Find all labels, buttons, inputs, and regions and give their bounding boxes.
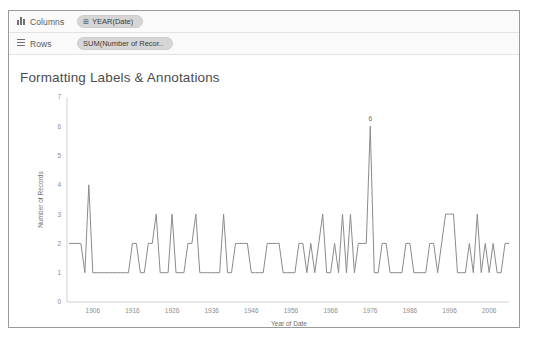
rows-lines-icon bbox=[17, 39, 25, 49]
view-area: Formatting Labels & Annotations 01234567… bbox=[9, 55, 519, 327]
y-tick-3: 3 bbox=[57, 211, 61, 218]
y-tick-2: 2 bbox=[57, 240, 61, 247]
x-tick-1996: 1996 bbox=[442, 307, 457, 314]
pill-year-date[interactable]: ⊞ YEAR(Date) bbox=[77, 15, 143, 28]
x-tick-1926: 1926 bbox=[165, 307, 180, 314]
line-chart-svg: 01234567 Number of Records 1906191619261… bbox=[9, 55, 520, 328]
columns-bars-icon bbox=[17, 17, 25, 27]
y-tick-7: 7 bbox=[57, 93, 61, 100]
x-tick-1976: 1976 bbox=[363, 307, 378, 314]
x-tick-1906: 1906 bbox=[86, 307, 101, 314]
columns-shelf[interactable]: Columns ⊞ YEAR(Date) bbox=[9, 11, 519, 33]
data-series-line[interactable] bbox=[69, 126, 509, 272]
rows-shelf-label: Rows bbox=[9, 39, 77, 49]
x-tick-2006: 2006 bbox=[482, 307, 497, 314]
y-tick-1: 1 bbox=[57, 269, 61, 276]
x-tick-1916: 1916 bbox=[125, 307, 140, 314]
x-axis: 1906191619261936194619561966197619861996… bbox=[67, 302, 509, 327]
rows-shelf[interactable]: Rows SUM(Number of Recor.. bbox=[9, 33, 519, 55]
pill-sum-number-of-records-label: SUM(Number of Recor.. bbox=[83, 39, 163, 48]
y-tick-5: 5 bbox=[57, 152, 61, 159]
x-tick-1956: 1956 bbox=[284, 307, 299, 314]
shelf-area: Columns ⊞ YEAR(Date) Rows SUM(Number of … bbox=[9, 11, 519, 55]
y-axis-title: Number of Records bbox=[37, 171, 44, 228]
y-axis: 01234567 Number of Records bbox=[37, 93, 67, 305]
pill-year-date-label: YEAR(Date) bbox=[92, 17, 133, 26]
calendar-pill-icon: ⊞ bbox=[83, 18, 89, 25]
y-tick-0: 0 bbox=[57, 298, 61, 305]
y-tick-6: 6 bbox=[57, 123, 61, 130]
y-tick-4: 4 bbox=[57, 181, 61, 188]
worksheet-frame: Columns ⊞ YEAR(Date) Rows SUM(Number of … bbox=[8, 10, 520, 328]
columns-shelf-label-text: Columns bbox=[30, 17, 64, 27]
x-tick-1986: 1986 bbox=[403, 307, 418, 314]
chart-plot-area[interactable]: 01234567 Number of Records 1906191619261… bbox=[9, 55, 520, 328]
x-tick-1966: 1966 bbox=[323, 307, 338, 314]
x-tick-1946: 1946 bbox=[244, 307, 259, 314]
x-axis-title: Year of Date bbox=[271, 320, 307, 327]
mark-label-annotation: 6 bbox=[368, 115, 372, 122]
x-tick-1936: 1936 bbox=[204, 307, 219, 314]
rows-shelf-label-text: Rows bbox=[30, 39, 52, 49]
columns-shelf-label: Columns bbox=[9, 17, 77, 27]
y-axis-ticks: 01234567 bbox=[57, 93, 61, 305]
pill-sum-number-of-records[interactable]: SUM(Number of Recor.. bbox=[77, 37, 173, 50]
x-axis-ticks: 1906191619261936194619561966197619861996… bbox=[86, 307, 497, 314]
